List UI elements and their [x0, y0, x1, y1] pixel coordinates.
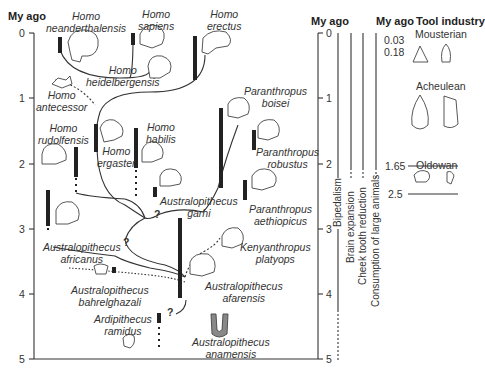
- left-tick-0: 0: [19, 27, 25, 39]
- range-bar-bahrelghazali: [112, 267, 116, 273]
- range-bar-africanus: [46, 190, 50, 226]
- label-kenyanthropus-platyops: Kenyanthropusplatyops: [240, 241, 311, 265]
- tool-tick-2-5: 2.5: [388, 188, 403, 200]
- trait-consumption-large-animals: Consumption of large animals: [370, 175, 381, 307]
- trait-bipedalism: Bipedalism: [332, 178, 343, 227]
- tool-acheulean-cleaver-icon: [444, 96, 458, 128]
- label-paranthropus-aethiopicus: Paranthropusaethiopicus: [249, 203, 312, 227]
- range-bar-neanderthalensis: [58, 37, 62, 53]
- skull-robustus-icon: [258, 120, 279, 140]
- range-bar-sapiens: [131, 33, 135, 45]
- label-paranthropus-boisei: Paranthropusboisei: [244, 85, 307, 109]
- left-tick-4: 4: [19, 288, 25, 300]
- skull-aethiopicus-icon: [252, 169, 276, 190]
- label-homo-habilis: Homohabilis: [146, 121, 176, 145]
- skull-neanderthalensis-icon: [68, 30, 98, 62]
- tool-industry-acheulean: Acheulean: [416, 80, 466, 92]
- uncertainty-marker: ?: [123, 236, 129, 248]
- label-homo-rudolfensis: Homorudolfensis: [38, 122, 89, 146]
- label-ardipithecus-ramidus: Ardipithecusramidus: [94, 313, 152, 337]
- tool-axis-title: My ago: [376, 15, 414, 27]
- skull-rudolfensis-icon: [42, 144, 66, 164]
- tool-mousterian-scraper-icon: [442, 44, 451, 62]
- range-bar-ramidus: [157, 313, 161, 323]
- jaw-bahrelghazali-icon: [94, 264, 108, 274]
- tool-industry-mousterian: Mousterian: [415, 28, 467, 40]
- left-axis-title: My ago: [8, 10, 46, 22]
- tool-oldowan-flake-icon: [447, 172, 454, 185]
- skull-garhi-icon: [160, 169, 181, 186]
- right-tick-4: 4: [326, 288, 332, 300]
- label-homo-ergaster: Homoergaster: [97, 145, 136, 169]
- left-tick-2: 2: [19, 158, 25, 170]
- skull-antecessor-icon: [52, 76, 72, 88]
- range-bar-afarensis: [178, 218, 182, 298]
- tool-mousterian-point-icon: [413, 46, 428, 62]
- range-bar-garhi: [153, 187, 157, 197]
- range-bar-boisei: [219, 108, 223, 188]
- left-tick-1: 1: [19, 92, 25, 104]
- jaw-anamensis-icon: [211, 314, 228, 337]
- tool-tick-0-18: 0.18: [384, 46, 404, 58]
- label-homo-antecessor: Homoantecessor: [36, 89, 87, 113]
- label-australopithecus-afarensis: Australopithecusafarensis: [205, 280, 283, 304]
- hominin-phylogeny-diagram: [0, 0, 485, 375]
- tool-industry-oldowan: Oldowan: [416, 159, 457, 171]
- left-tick-5: 5: [19, 353, 25, 365]
- label-homo-neanderthalensis: Homoneanderthalensis: [46, 10, 126, 34]
- tool-tick-1-65: 1.65: [385, 160, 405, 172]
- left-tick-3: 3: [19, 223, 25, 235]
- right-tick-5: 5: [326, 353, 332, 365]
- range-bar-erectus: [193, 36, 197, 80]
- uncertainty-marker: ?: [167, 306, 173, 318]
- trait-cheek-tooth-reduction: Cheek tooth reduction: [357, 187, 368, 285]
- right-tick-3: 3: [326, 223, 332, 235]
- label-homo-heidelbergensis: Homoheidelbergensis: [86, 64, 160, 88]
- tool-industry-title: Tool industry: [416, 15, 485, 27]
- skull-afarensis-icon: [190, 254, 215, 276]
- label-paranthropus-robustus: Paranthropusrobustus: [256, 146, 319, 170]
- skull-erectus-icon: [202, 31, 231, 54]
- label-homo-erectus: Homoerectus: [207, 8, 241, 32]
- label-australopithecus-bahrelghazali: Australopithecusbahrelghazali: [71, 284, 149, 308]
- tool-acheulean-handaxe-icon: [412, 95, 429, 129]
- skull-ergaster-icon: [100, 120, 123, 142]
- right-tick-2: 2: [326, 158, 332, 170]
- right-axis-title: My ago: [311, 15, 349, 27]
- range-bar-aethiopicus: [243, 180, 247, 200]
- trait-brain-expansion: Brain expansion: [345, 191, 356, 263]
- label-homo-sapiens: Homosapiens: [138, 8, 174, 32]
- tool-oldowan-chopper-icon: [414, 171, 430, 182]
- skull-africanus-icon: [56, 202, 79, 224]
- uncertainty-marker: ?: [154, 208, 160, 220]
- range-bar-rudolfensis: [74, 147, 78, 177]
- right-tick-0: 0: [326, 27, 332, 39]
- label-australopithecus-africanus: Australopithecusafricanus: [43, 241, 121, 265]
- tool-tick-0-03: 0.03: [384, 34, 404, 46]
- label-australopithecus-anamensis: Australopithecusanamensis: [192, 336, 270, 360]
- right-tick-1: 1: [326, 92, 332, 104]
- label-australopithecus-garhi: Australopithecusgarhi: [160, 195, 238, 219]
